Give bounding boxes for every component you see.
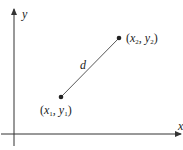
point-2-label: (x2, y2) — [126, 31, 158, 46]
point-1-label: (x1, y1) — [40, 103, 72, 118]
y-axis-label: y — [21, 7, 28, 21]
distance-segment — [61, 38, 119, 97]
distance-diagram: y x d (x1, y1) (x2, y2) — [0, 0, 183, 150]
point-2 — [117, 36, 122, 41]
x-axis-label: x — [177, 119, 183, 133]
distance-label: d — [80, 58, 87, 72]
point-1 — [59, 95, 64, 100]
